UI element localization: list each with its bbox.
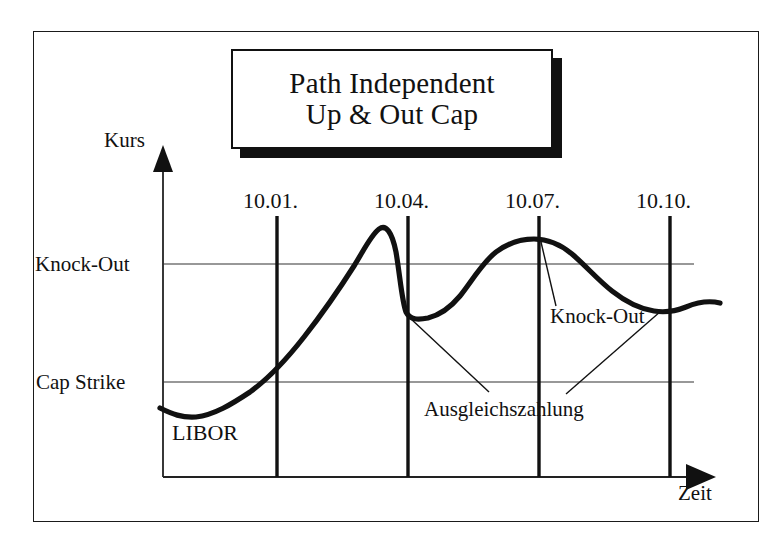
leader-line-ausgleichszahlung-left xyxy=(410,318,489,392)
figure-canvas: Path Independent Up & Out Cap Kurs Zeit … xyxy=(0,0,783,547)
libor-curve-label: LIBOR xyxy=(172,420,238,446)
knock-out-level-label: Knock-Out xyxy=(35,252,129,277)
y-axis-label: Kurs xyxy=(104,128,145,153)
date-label-2: 10.04. xyxy=(374,188,429,214)
date-label-3: 10.07. xyxy=(505,188,560,214)
annotation-knock-out: Knock-Out xyxy=(550,304,644,329)
x-axis-label: Zeit xyxy=(678,481,712,506)
annotation-ausgleichszahlung: Ausgleichszahlung xyxy=(424,397,584,422)
date-label-4: 10.10. xyxy=(636,188,691,214)
y-axis-arrow-icon xyxy=(153,145,173,172)
cap-strike-level-label: Cap Strike xyxy=(36,370,125,395)
date-label-1: 10.01. xyxy=(243,188,298,214)
leader-line-knock-out xyxy=(541,242,556,306)
